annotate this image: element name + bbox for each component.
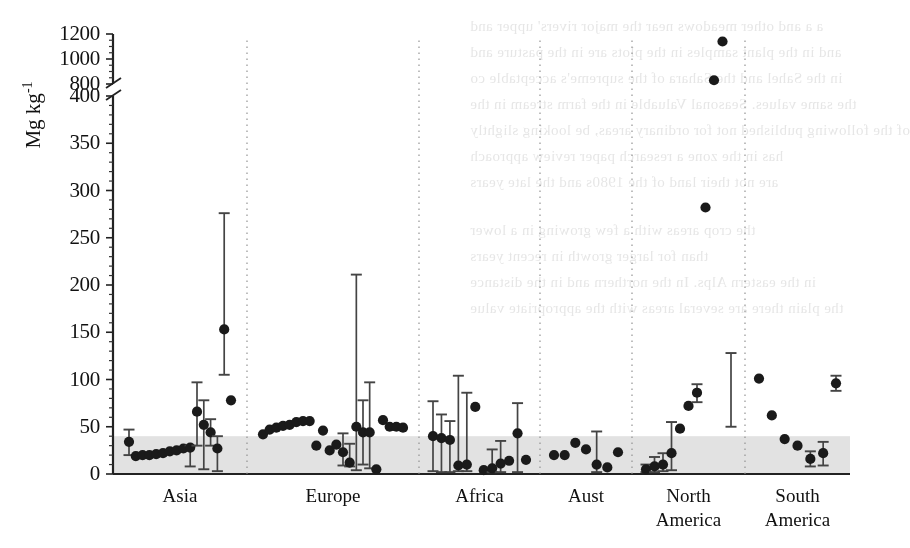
data-point <box>709 75 719 85</box>
data-point <box>602 462 612 472</box>
data-point <box>219 324 229 334</box>
data-point <box>345 458 355 468</box>
data-point <box>780 434 790 444</box>
series-asia <box>124 213 237 471</box>
data-point <box>560 450 570 460</box>
data-point <box>365 427 375 437</box>
data-point <box>717 36 727 46</box>
data-point <box>398 423 408 433</box>
data-point <box>754 373 764 383</box>
data-point <box>521 455 531 465</box>
series-north-america <box>641 36 737 474</box>
data-point <box>767 410 777 420</box>
data-point <box>666 448 676 458</box>
data-point <box>338 447 348 457</box>
data-point <box>581 444 591 454</box>
data-point <box>818 448 828 458</box>
data-point <box>613 447 623 457</box>
data-point <box>570 438 580 448</box>
data-point <box>445 435 455 445</box>
data-point <box>124 437 134 447</box>
data-point <box>318 425 328 435</box>
data-point <box>185 442 195 452</box>
data-point <box>700 202 710 212</box>
data-point <box>192 407 202 417</box>
data-point <box>658 459 668 469</box>
data-point <box>462 459 472 469</box>
data-point <box>512 428 522 438</box>
error-bar <box>726 353 737 427</box>
data-point <box>549 450 559 460</box>
data-point <box>212 443 222 453</box>
data-point <box>805 454 815 464</box>
data-point <box>311 441 321 451</box>
category-separators <box>247 40 745 474</box>
data-point <box>792 441 802 451</box>
data-point <box>649 461 659 471</box>
data-point <box>305 416 315 426</box>
data-point <box>470 402 480 412</box>
data-point <box>692 388 702 398</box>
data-point <box>226 395 236 405</box>
data-point <box>675 424 685 434</box>
data-point <box>199 420 209 430</box>
data-point <box>436 433 446 443</box>
data-point <box>428 431 438 441</box>
error-bar <box>219 213 230 375</box>
data-point <box>479 465 489 475</box>
data-point <box>504 456 514 466</box>
data-point <box>371 464 381 474</box>
data-point <box>592 459 602 469</box>
data-point <box>831 378 841 388</box>
